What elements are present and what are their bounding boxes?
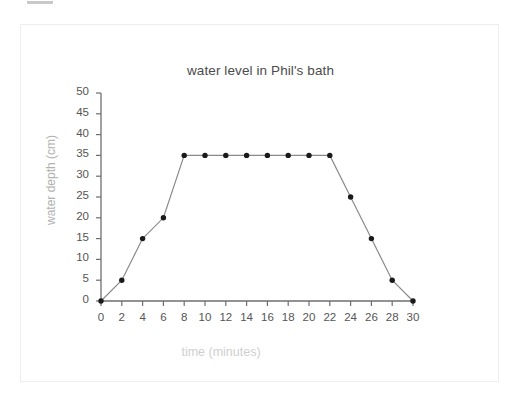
y-tick-label: 0 xyxy=(59,293,89,305)
y-tick-label: 5 xyxy=(59,272,89,284)
y-tick-label: 15 xyxy=(59,231,89,243)
y-tick-label: 45 xyxy=(59,106,89,118)
data-point-marker xyxy=(265,153,270,158)
data-point-marker xyxy=(244,153,249,158)
data-point-marker xyxy=(182,153,187,158)
y-tick-label: 20 xyxy=(59,210,89,222)
x-tick-label: 30 xyxy=(401,311,425,323)
data-line xyxy=(101,155,413,301)
data-point-marker xyxy=(369,236,374,241)
y-tick-label: 30 xyxy=(59,168,89,180)
data-point-marker xyxy=(306,153,311,158)
data-point-marker xyxy=(410,298,415,303)
data-point-marker xyxy=(119,278,124,283)
y-tick-label: 40 xyxy=(59,127,89,139)
y-tick-label: 50 xyxy=(59,85,89,97)
y-tick-label: 35 xyxy=(59,147,89,159)
data-markers xyxy=(98,153,415,304)
axis-lines xyxy=(101,93,413,301)
data-point-marker xyxy=(202,153,207,158)
y-tick-label: 10 xyxy=(59,251,89,263)
chart-figure-frame: water level in Phil's bath water depth (… xyxy=(20,24,499,382)
data-point-marker xyxy=(223,153,228,158)
top-page-artifact-mark xyxy=(27,1,53,4)
data-point-marker xyxy=(140,236,145,241)
data-point-marker xyxy=(161,215,166,220)
data-point-marker xyxy=(98,298,103,303)
data-point-marker xyxy=(390,278,395,283)
tick-marks xyxy=(96,93,413,306)
y-tick-label: 25 xyxy=(59,189,89,201)
chart-svg xyxy=(21,25,500,383)
series-line-water-depth xyxy=(101,155,413,301)
plot-area: water depth (cm) time (minutes) 05101520… xyxy=(21,25,500,383)
data-point-marker xyxy=(327,153,332,158)
data-point-marker xyxy=(286,153,291,158)
data-point-marker xyxy=(348,194,353,199)
